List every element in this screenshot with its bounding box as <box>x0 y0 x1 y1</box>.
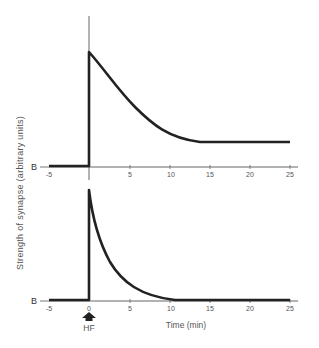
hf-label: HF <box>83 323 94 333</box>
upper-panel: B -5 5 10 15 20 25 <box>31 16 298 180</box>
lower-baseline-label: B <box>31 296 37 306</box>
svg-text:20: 20 <box>246 171 254 178</box>
svg-text:0: 0 <box>87 305 91 312</box>
svg-text:-5: -5 <box>46 305 52 312</box>
lower-curve <box>49 190 290 300</box>
y-axis-label: Strength of synapse (arbitrary units) <box>15 116 25 270</box>
lower-tick-labels: -5 0 5 10 15 20 25 <box>46 305 294 312</box>
svg-text:-5: -5 <box>46 171 52 178</box>
figure: Strength of synapse (arbitrary units) B … <box>0 0 319 348</box>
svg-text:20: 20 <box>246 305 254 312</box>
svg-text:10: 10 <box>167 305 175 312</box>
svg-text:25: 25 <box>286 171 294 178</box>
svg-text:25: 25 <box>286 305 294 312</box>
upper-curve <box>49 52 290 166</box>
svg-text:10: 10 <box>167 171 175 178</box>
upper-tick-labels: -5 5 10 15 20 25 <box>46 171 294 178</box>
hf-arrow-icon <box>82 312 96 321</box>
svg-text:15: 15 <box>206 305 214 312</box>
upper-baseline-label: B <box>31 162 37 172</box>
lower-panel: B -5 0 5 10 15 20 25 HF Time (min) <box>31 190 298 333</box>
svg-text:15: 15 <box>206 171 214 178</box>
x-axis-label: Time (min) <box>166 320 206 330</box>
svg-text:5: 5 <box>128 305 132 312</box>
svg-text:5: 5 <box>128 171 132 178</box>
